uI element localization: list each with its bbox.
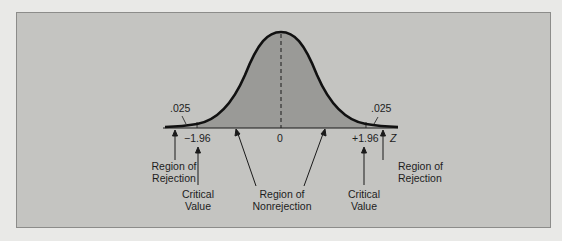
label-line: Rejection (128, 172, 220, 184)
right-tail-leader (374, 117, 378, 124)
label-right-critical: Critical Value (334, 188, 394, 212)
arrowhead-icon (196, 147, 201, 153)
label-nonrejection: Region of Nonrejection (238, 188, 326, 212)
label-line: Critical (168, 188, 228, 200)
label-line: Region of (398, 160, 472, 172)
arrowhead-icon (362, 147, 367, 153)
label-line: Rejection (398, 172, 472, 184)
label-line: Value (168, 200, 228, 212)
label-line: Value (334, 200, 394, 212)
arrow-nonrejection-right (304, 131, 324, 186)
tick-right-critical: +1.96 (352, 132, 379, 144)
left-tail-area-label: .025 (170, 102, 190, 114)
arrowhead-icon (381, 130, 386, 136)
label-line: Region of (128, 160, 220, 172)
left-tail-leader (182, 116, 186, 124)
arrowhead-icon (235, 129, 240, 136)
label-right-rejection: Region of Rejection (380, 160, 472, 184)
right-tail-area-label: .025 (371, 102, 391, 114)
tick-center: 0 (277, 132, 283, 144)
label-line: Critical (334, 188, 394, 200)
arrow-nonrejection-left (237, 131, 256, 186)
label-left-rejection: Region of Rejection (128, 160, 220, 184)
arrowhead-icon (321, 129, 326, 136)
arrowhead-icon (173, 130, 178, 136)
label-left-critical: Critical Value (168, 188, 228, 212)
axis-label-z: Z (390, 132, 396, 144)
label-line: Nonrejection (238, 200, 326, 212)
label-line: Region of (238, 188, 326, 200)
tick-left-critical: −1.96 (184, 132, 211, 144)
